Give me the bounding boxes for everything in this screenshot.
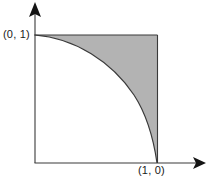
shaded-region xyxy=(35,35,158,163)
x-intercept-label: (1, 0) xyxy=(138,165,165,176)
y-intercept-label: (0, 1) xyxy=(3,29,30,40)
figure-container: (0, 1) (1, 0) xyxy=(0,0,213,179)
figure-graphic xyxy=(0,0,213,179)
